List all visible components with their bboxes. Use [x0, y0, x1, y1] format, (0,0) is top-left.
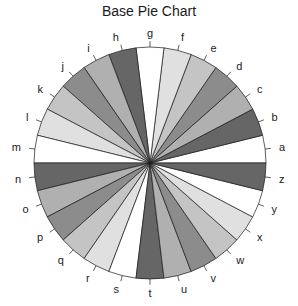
slice-label: s: [113, 283, 119, 295]
slice-label: y: [271, 203, 277, 215]
label-tick: [50, 94, 55, 97]
slice-label: p: [37, 231, 43, 243]
label-tick: [245, 229, 250, 232]
label-tick: [93, 55, 96, 60]
label-tick: [69, 250, 73, 254]
slice-label: u: [181, 283, 187, 295]
label-tick: [36, 204, 41, 206]
slice-label: o: [22, 203, 28, 215]
label-tick: [29, 148, 35, 149]
label-tick: [227, 250, 231, 254]
label-tick: [204, 55, 207, 60]
slice-label: l: [26, 111, 28, 123]
slice-label: v: [210, 272, 216, 284]
slice-label: r: [86, 272, 90, 284]
slice-label: q: [58, 254, 64, 266]
slice-label: w: [235, 254, 244, 266]
label-tick: [265, 148, 271, 149]
label-tick: [121, 276, 122, 282]
slice-label: d: [236, 60, 242, 72]
pie-chart: abcdefghijklmnopqrstuvwxyz: [0, 0, 298, 306]
pie-slices: [34, 47, 266, 279]
label-tick: [245, 94, 250, 97]
label-tick: [36, 120, 41, 122]
slice-label: t: [148, 287, 151, 299]
slice-label: j: [60, 60, 63, 72]
label-tick: [265, 177, 271, 178]
slice-label: f: [181, 31, 185, 43]
slice-label: g: [147, 27, 153, 39]
label-tick: [227, 72, 231, 76]
slice-label: z: [279, 173, 285, 185]
label-tick: [258, 204, 263, 206]
slice-label: a: [279, 141, 286, 153]
slice-label: b: [271, 111, 277, 123]
label-tick: [121, 45, 122, 51]
label-tick: [93, 266, 96, 271]
slice-label: h: [113, 31, 119, 43]
label-tick: [69, 72, 73, 76]
slice-label: c: [257, 83, 263, 95]
label-tick: [178, 45, 179, 51]
slice-label: x: [257, 231, 263, 243]
label-tick: [50, 229, 55, 232]
label-tick: [178, 276, 179, 282]
slice-label: m: [12, 141, 21, 153]
slice-label: n: [15, 173, 21, 185]
label-tick: [29, 177, 35, 178]
label-tick: [204, 266, 207, 271]
slice-label: i: [87, 42, 89, 54]
slice-label: k: [38, 83, 44, 95]
label-tick: [258, 120, 263, 122]
slice-label: e: [210, 42, 216, 54]
